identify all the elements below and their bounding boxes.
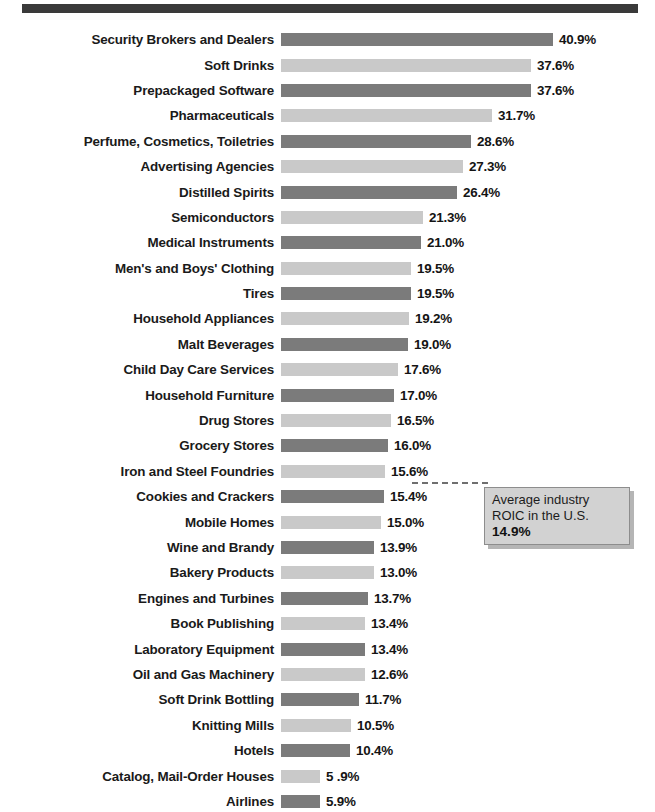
chart-row: Perfume, Cosmetics, Toiletries28.6% <box>0 129 655 154</box>
chart-row: Advertising Agencies27.3% <box>0 154 655 179</box>
bar-category-label: Men's and Boys' Clothing <box>0 261 281 276</box>
bar-value-label: 13.4% <box>365 642 408 657</box>
bar-track: 5.9% <box>281 789 655 812</box>
callout-line-2: ROIC in the U.S. <box>492 508 623 524</box>
bar <box>281 186 457 199</box>
bar-category-label: Book Publishing <box>0 616 281 631</box>
bar-value-label: 19.0% <box>408 337 451 352</box>
chart-row: Oil and Gas Machinery12.6% <box>0 662 655 687</box>
bar-track: 13.7% <box>281 586 655 611</box>
bar-track: 10.5% <box>281 713 655 738</box>
callout-line-1: Average industry <box>492 492 623 508</box>
chart-row: Catalog, Mail-Order Houses5 .9% <box>0 763 655 788</box>
bar-category-label: Perfume, Cosmetics, Toiletries <box>0 134 281 149</box>
bar-value-label: 5 .9% <box>320 769 359 784</box>
bar-category-label: Prepackaged Software <box>0 83 281 98</box>
bar <box>281 566 374 579</box>
bar-value-label: 15.4% <box>384 489 427 504</box>
chart-row: Child Day Care Services17.6% <box>0 357 655 382</box>
bar-value-label: 19.5% <box>411 286 454 301</box>
bar-track: 11.7% <box>281 687 655 712</box>
chart-row: Men's and Boys' Clothing19.5% <box>0 256 655 281</box>
chart-row: Iron and Steel Foundries15.6% <box>0 459 655 484</box>
bar-value-label: 13.9% <box>374 540 417 555</box>
average-roic-leader-line <box>412 482 488 484</box>
bar <box>281 236 421 249</box>
bar <box>281 135 471 148</box>
callout-value: 14.9% <box>492 523 623 540</box>
chart-row: Bakery Products13.0% <box>0 560 655 585</box>
chart-row: Knitting Mills10.5% <box>0 713 655 738</box>
bar-category-label: Soft Drinks <box>0 58 281 73</box>
bar-value-label: 28.6% <box>471 134 514 149</box>
bar <box>281 389 394 402</box>
bar-value-label: 21.0% <box>421 235 464 250</box>
bar-track: 19.2% <box>281 306 655 331</box>
bar-category-label: Pharmaceuticals <box>0 108 281 123</box>
chart-row: Distilled Spirits26.4% <box>0 179 655 204</box>
bar-category-label: Tires <box>0 286 281 301</box>
bar <box>281 414 391 427</box>
bar-category-label: Malt Beverages <box>0 337 281 352</box>
chart-row: Soft Drinks37.6% <box>0 52 655 77</box>
bar-category-label: Oil and Gas Machinery <box>0 667 281 682</box>
bar <box>281 338 408 351</box>
bar-track: 40.9% <box>281 27 655 52</box>
bar-value-label: 13.0% <box>374 565 417 580</box>
bar-value-label: 37.6% <box>531 83 574 98</box>
chart-row: Medical Instruments21.0% <box>0 230 655 255</box>
bar-track: 13.4% <box>281 636 655 661</box>
bar-track: 17.0% <box>281 382 655 407</box>
top-divider-rule <box>22 4 638 13</box>
bar-value-label: 27.3% <box>463 159 506 174</box>
bar-track: 27.3% <box>281 154 655 179</box>
bar-category-label: Bakery Products <box>0 565 281 580</box>
bar <box>281 770 320 783</box>
bar-track: 21.0% <box>281 230 655 255</box>
bar-category-label: Mobile Homes <box>0 515 281 530</box>
chart-row: Grocery Stores16.0% <box>0 433 655 458</box>
bar-category-label: Advertising Agencies <box>0 159 281 174</box>
bar-track: 26.4% <box>281 179 655 204</box>
bar-value-label: 26.4% <box>457 185 500 200</box>
bar-category-label: Grocery Stores <box>0 438 281 453</box>
bar-track: 16.0% <box>281 433 655 458</box>
bar-track: 13.4% <box>281 611 655 636</box>
chart-row: Semiconductors21.3% <box>0 205 655 230</box>
bar-value-label: 19.2% <box>409 311 452 326</box>
bar <box>281 59 531 72</box>
bar <box>281 262 411 275</box>
chart-row: Laboratory Equipment13.4% <box>0 636 655 661</box>
chart-row: Security Brokers and Dealers40.9% <box>0 27 655 52</box>
bar-track: 31.7% <box>281 103 655 128</box>
bar-track: 21.3% <box>281 205 655 230</box>
bar-track: 13.0% <box>281 560 655 585</box>
bar <box>281 541 374 554</box>
average-roic-callout-box: Average industry ROIC in the U.S. 14.9% <box>484 487 630 545</box>
bar <box>281 668 365 681</box>
bar-track: 12.6% <box>281 662 655 687</box>
bar-track: 19.5% <box>281 256 655 281</box>
bar-track: 17.6% <box>281 357 655 382</box>
bar-track: 37.6% <box>281 52 655 77</box>
bar-value-label: 13.7% <box>368 591 411 606</box>
bar-value-label: 17.0% <box>394 388 437 403</box>
bar-category-label: Cookies and Crackers <box>0 489 281 504</box>
bar <box>281 592 368 605</box>
bar-category-label: Security Brokers and Dealers <box>0 32 281 47</box>
bar-value-label: 11.7% <box>359 692 401 707</box>
bar-category-label: Medical Instruments <box>0 235 281 250</box>
bar-value-label: 40.9% <box>553 32 596 47</box>
bar <box>281 617 365 630</box>
bar-value-label: 21.3% <box>423 210 466 225</box>
bar-category-label: Airlines <box>0 794 281 809</box>
bar-category-label: Engines and Turbines <box>0 591 281 606</box>
bar-category-label: Iron and Steel Foundries <box>0 464 281 479</box>
bar <box>281 693 359 706</box>
bar <box>281 643 365 656</box>
chart-row: Tires19.5% <box>0 281 655 306</box>
bar-track: 10.4% <box>281 738 655 763</box>
bar <box>281 287 411 300</box>
chart-row: Hotels10.4% <box>0 738 655 763</box>
bar <box>281 744 350 757</box>
